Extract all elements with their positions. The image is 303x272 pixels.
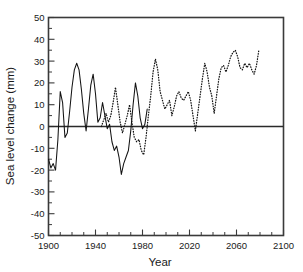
y-axis-title: Sea level change (mm) — [4, 67, 16, 185]
x-tick-label: 2100 — [273, 240, 294, 251]
y-tick-label: 50 — [34, 12, 45, 23]
x-axis-tick-labels: 190019401980202020602100 — [38, 240, 294, 251]
x-tick-label: 1980 — [132, 240, 153, 251]
data-series-group — [49, 50, 259, 174]
y-tick-label: 30 — [34, 56, 45, 67]
y-tick-label: -20 — [31, 165, 45, 176]
y-tick-label: 10 — [34, 99, 45, 110]
line-chart: 190019401980202020602100 -50-40-30-20-10… — [0, 0, 303, 272]
y-tick-label: -10 — [31, 143, 45, 154]
x-tick-label: 1900 — [38, 240, 59, 251]
x-axis-title: Year — [148, 256, 171, 268]
y-tick-label: 20 — [34, 77, 45, 88]
y-tick-label: 40 — [34, 34, 45, 45]
x-tick-label: 2020 — [179, 240, 200, 251]
series-line-observed — [49, 63, 148, 174]
series-line-projected — [101, 50, 258, 155]
y-axis-tick-labels: -50-40-30-20-1001020304050 — [31, 12, 45, 241]
y-tick-label: -50 — [31, 230, 45, 241]
x-tick-label: 2060 — [226, 240, 247, 251]
x-tick-label: 1940 — [85, 240, 106, 251]
sea-level-change-figure: 190019401980202020602100 -50-40-30-20-10… — [0, 0, 303, 272]
y-tick-label: -40 — [31, 208, 45, 219]
x-axis-ticks — [49, 230, 284, 236]
y-tick-label: 0 — [39, 121, 44, 132]
y-tick-label: -30 — [31, 186, 45, 197]
